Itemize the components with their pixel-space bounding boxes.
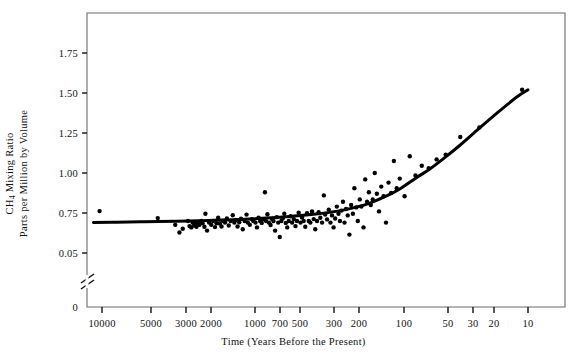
- y-tick-label: 0.05: [40, 248, 78, 259]
- x-tick-label: 10: [523, 318, 534, 329]
- y-tick-label: 1.75: [40, 48, 78, 59]
- fit-curve: [93, 90, 528, 223]
- y-axis-break-icon: [81, 274, 94, 289]
- x-tick-label: 30: [468, 318, 479, 329]
- x-tick-label: 2000: [200, 318, 222, 329]
- y-tick-label: 0: [40, 302, 78, 313]
- scatter-points: [97, 88, 524, 240]
- y-axis-title: CH4 Mixing Ratio Parts per Million by Vo…: [3, 74, 30, 274]
- x-tick-label: 700: [272, 318, 288, 329]
- y-tick-label: 0.75: [40, 208, 78, 219]
- x-tick-label: 10000: [88, 318, 115, 329]
- x-axis-title: Time (Years Before the Present): [0, 336, 587, 347]
- y-axis-title-rest: Mixing Ratio: [4, 132, 15, 195]
- y-axis-title-subscript: 4: [8, 195, 17, 199]
- x-tick-label: 200: [351, 318, 367, 329]
- y-tick-label: 1.25: [40, 128, 78, 139]
- y-axis-title-line-1: CH4 Mixing Ratio: [3, 74, 17, 274]
- x-tick-label: 5000: [140, 318, 162, 329]
- plot-frame: [87, 13, 565, 307]
- axis-ticks: [82, 53, 528, 313]
- x-tick-label: 100: [396, 318, 412, 329]
- y-tick-label: 1.50: [40, 88, 78, 99]
- y-tick-label: 1.00: [40, 168, 78, 179]
- y-axis-title-line-2: Parts per Million by Volume: [17, 74, 30, 274]
- x-tick-label: 50: [443, 318, 454, 329]
- x-tick-label: 1000: [244, 318, 266, 329]
- x-tick-label: 20: [489, 318, 500, 329]
- x-tick-label: 300: [326, 318, 342, 329]
- x-tick-label: 3000: [175, 318, 197, 329]
- chart-figure: 1.751.501.251.000.750.050 10000500030002…: [0, 0, 587, 363]
- y-axis-title-species: CH: [4, 199, 15, 214]
- chart-canvas: [0, 0, 587, 363]
- x-tick-label: 500: [292, 318, 308, 329]
